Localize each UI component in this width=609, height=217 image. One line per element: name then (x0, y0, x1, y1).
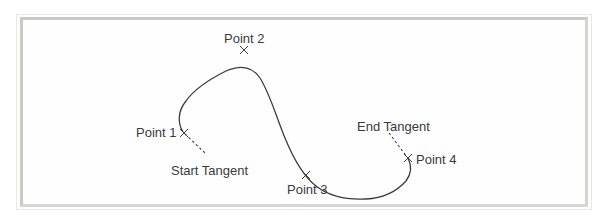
point-2-marker-icon (240, 46, 248, 54)
end-tangent-line (389, 133, 407, 157)
point-4-marker-icon (404, 154, 412, 162)
spline-diagram: Point 1 Point 2 Point 3 Point 4 Start Ta… (0, 0, 609, 217)
point-3-label: Point 3 (287, 182, 327, 197)
point-4-label: Point 4 (416, 152, 456, 167)
point-2-label: Point 2 (224, 31, 264, 46)
point-1-marker-icon (180, 129, 188, 137)
point-3-marker-icon (302, 171, 310, 179)
point-1-label: Point 1 (136, 125, 176, 140)
end-tangent-label: End Tangent (357, 119, 430, 134)
start-tangent-label: Start Tangent (171, 163, 248, 178)
